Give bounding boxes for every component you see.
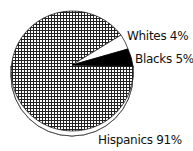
label-whites: Whites 4% [127, 29, 188, 43]
label-blacks: Blacks 5% [135, 52, 193, 66]
pie-chart [0, 0, 193, 151]
slice-hispanics [11, 11, 133, 131]
label-hispanics: Hispanics 91% [98, 133, 182, 147]
